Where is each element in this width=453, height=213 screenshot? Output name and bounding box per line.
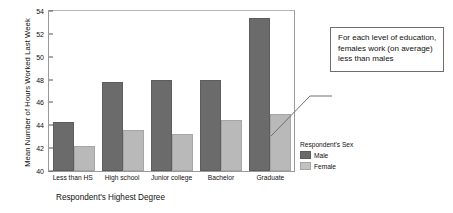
bar-group xyxy=(147,11,196,171)
x-axis-tick-label: High school xyxy=(97,174,146,181)
bar-group xyxy=(196,11,245,171)
x-axis-tick-label: Junior college xyxy=(147,174,196,181)
bar-female[interactable] xyxy=(74,146,95,171)
y-axis-tick: 54 xyxy=(36,8,49,15)
y-axis-tick: 46 xyxy=(36,99,49,106)
plot-inner: 4042444648505254 xyxy=(49,11,294,171)
bar-male[interactable] xyxy=(102,82,123,171)
bar-male[interactable] xyxy=(249,18,270,171)
bar-male[interactable] xyxy=(53,122,74,171)
x-axis-tick-label: Less than HS xyxy=(48,174,97,181)
plot-area: 4042444648505254 xyxy=(48,10,295,172)
legend-swatch-female-icon xyxy=(300,162,311,170)
legend-item-female[interactable]: Female xyxy=(300,162,353,170)
legend-swatch-male-icon xyxy=(300,151,311,159)
bar-groups xyxy=(49,11,294,171)
legend-title: Respondent's Sex xyxy=(300,141,353,148)
annotation-box: For each level of education, females wor… xyxy=(330,27,444,72)
x-axis-title: Respondent's Highest Degree xyxy=(56,193,165,202)
y-axis-tick: 50 xyxy=(36,53,49,60)
bar-group xyxy=(245,11,294,171)
bar-male[interactable] xyxy=(200,80,221,171)
bar-female[interactable] xyxy=(123,130,144,171)
x-axis-tick-label: Bachelor xyxy=(196,174,245,181)
x-axis-tick-label: Graduate xyxy=(246,174,295,181)
bar-male[interactable] xyxy=(151,80,172,171)
x-axis-tick-labels: Less than HSHigh schoolJunior collegeBac… xyxy=(48,174,295,181)
legend-item-male[interactable]: Male xyxy=(300,151,353,159)
bar-female[interactable] xyxy=(221,120,242,171)
y-axis-title: Mean Number of Hours Worked Last Week xyxy=(23,8,32,178)
bar-female[interactable] xyxy=(270,114,291,171)
y-axis-tick: 52 xyxy=(36,30,49,37)
legend: Respondent's Sex Male Female xyxy=(300,141,353,173)
y-axis-tick: 44 xyxy=(36,122,49,129)
y-axis-tick: 42 xyxy=(36,145,49,152)
y-axis-tick: 48 xyxy=(36,76,49,83)
chart-container: Mean Number of Hours Worked Last Week 40… xyxy=(0,0,453,213)
legend-label-male: Male xyxy=(314,152,328,159)
bar-group xyxy=(49,11,98,171)
legend-label-female: Female xyxy=(314,163,336,170)
bar-female[interactable] xyxy=(172,134,193,171)
bar-group xyxy=(98,11,147,171)
